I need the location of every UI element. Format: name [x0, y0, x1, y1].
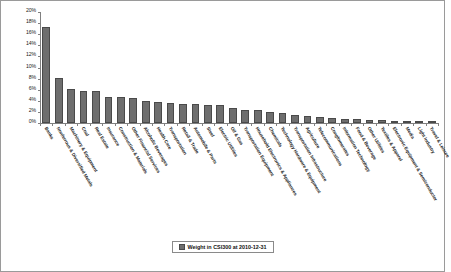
bar-column — [279, 12, 287, 123]
legend-label: Weight in CSI300 at 2010-12-31 — [188, 244, 267, 250]
bar — [216, 105, 224, 123]
bar — [154, 102, 162, 123]
y-axis-tick-label: 6% — [29, 85, 36, 91]
bar — [117, 97, 125, 123]
bar — [403, 121, 411, 123]
bar-column — [328, 12, 336, 123]
y-axis-tick-label: 18% — [26, 18, 36, 24]
bar — [353, 119, 361, 123]
x-axis-labels: BanksNonferrous & Diversified MetalsMach… — [40, 126, 439, 241]
bar — [142, 101, 150, 123]
bar — [129, 98, 137, 123]
bar — [67, 89, 75, 123]
legend-swatch-icon — [179, 244, 185, 250]
x-axis-category-label: Coal — [81, 126, 90, 137]
bar-column — [291, 12, 299, 123]
bar — [229, 108, 237, 123]
bar — [179, 104, 187, 123]
bar — [105, 97, 113, 123]
bar — [428, 121, 436, 123]
chart-legend: Weight in CSI300 at 2010-12-31 — [172, 241, 274, 253]
bar — [241, 110, 249, 123]
x-axis-category-label: Banks — [43, 126, 54, 140]
bar-column — [366, 12, 374, 123]
x-axis-category-label: Steel — [205, 126, 215, 138]
plot-area — [40, 12, 438, 123]
y-axis-tick-label: 20% — [26, 7, 36, 13]
y-axis-tick-label: 8% — [29, 74, 36, 80]
bar-column — [266, 12, 274, 123]
bar — [192, 104, 200, 123]
y-axis-tick-label: 0% — [29, 118, 36, 124]
bar-column — [192, 12, 200, 123]
bar-column — [254, 12, 262, 123]
bar-column — [428, 12, 436, 123]
bar-column — [229, 12, 237, 123]
y-axis-tick-label: 2% — [29, 107, 36, 113]
bar-column — [179, 12, 187, 123]
bar — [304, 116, 312, 123]
bar-column — [167, 12, 175, 123]
bar — [254, 110, 262, 123]
bar-column — [142, 12, 150, 123]
bar — [92, 91, 100, 123]
bar-column — [341, 12, 349, 123]
bar-column — [67, 12, 75, 123]
y-axis-tick-label: 12% — [26, 51, 36, 57]
bar — [391, 121, 399, 123]
bar — [378, 120, 386, 123]
bar — [266, 112, 274, 123]
bar-column — [216, 12, 224, 123]
y-axis-tick-label: 16% — [26, 29, 36, 35]
bar-column — [304, 12, 312, 123]
bar — [291, 115, 299, 123]
x-axis-category-label: Media — [404, 126, 415, 140]
bar — [167, 103, 175, 123]
bar-column — [415, 12, 423, 123]
bar — [279, 113, 287, 123]
bar-column — [241, 12, 249, 123]
bar-column — [80, 12, 88, 123]
bar-column — [353, 12, 361, 123]
bar-column — [92, 12, 100, 123]
y-axis-tick-label: 14% — [26, 40, 36, 46]
bar — [415, 121, 423, 123]
bar-column — [154, 12, 162, 123]
bar — [204, 105, 212, 123]
bar-column — [117, 12, 125, 123]
bar-column — [129, 12, 137, 123]
bar-column — [55, 12, 63, 123]
y-axis-tick-label: 4% — [29, 96, 36, 102]
bar-column — [42, 12, 50, 123]
bar-column — [403, 12, 411, 123]
bar — [316, 117, 324, 123]
bar — [328, 118, 336, 123]
bar-column — [391, 12, 399, 123]
bar — [80, 91, 88, 123]
bar-column — [105, 12, 113, 123]
bar — [366, 120, 374, 123]
bar — [55, 78, 63, 124]
bar-column — [378, 12, 386, 123]
bar-column — [316, 12, 324, 123]
bar-column — [204, 12, 212, 123]
bar — [42, 27, 50, 123]
bar — [341, 119, 349, 123]
y-axis-tick-label: 10% — [26, 63, 36, 69]
